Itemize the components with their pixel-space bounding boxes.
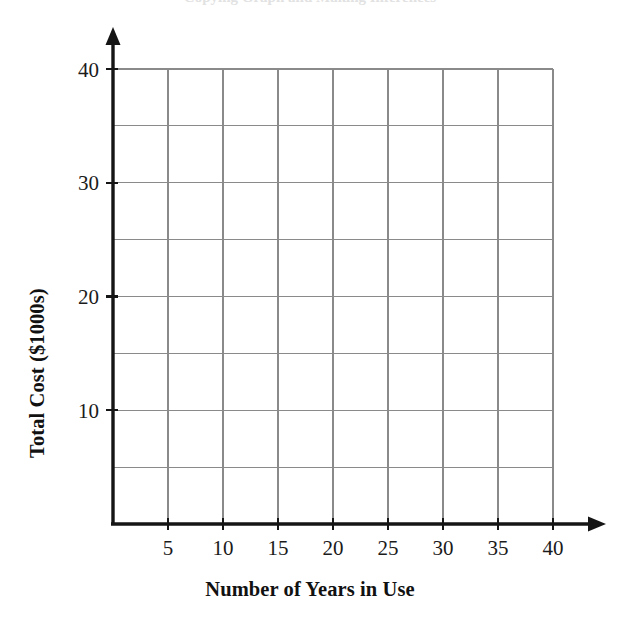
x-tick-label-40: 40 [543, 536, 564, 560]
x-tick-label-5: 5 [163, 536, 174, 560]
x-tick-label-35: 35 [488, 536, 509, 560]
chart-figure: Copying Graph and Making Inferences [0, 0, 620, 618]
y-tick-label-40: 40 [78, 58, 99, 82]
arrow-up-icon [106, 27, 121, 45]
y-tick-label-30: 30 [78, 171, 99, 195]
y-tick-label-10: 10 [78, 399, 99, 423]
x-tick-label-20: 20 [323, 536, 344, 560]
y-tick-label-20: 20 [78, 285, 99, 309]
x-tick-label-25: 25 [378, 536, 399, 560]
arrow-right-icon [588, 517, 606, 532]
x-axis-tick-labels: 5 10 15 20 25 30 35 40 [163, 536, 564, 560]
y-axis-tick-labels: 40 30 20 10 [78, 58, 99, 423]
plot-area: 40 30 20 10 5 10 15 20 25 30 35 40 [0, 0, 620, 618]
x-tick-label-15: 15 [268, 536, 289, 560]
x-tick-label-30: 30 [433, 536, 454, 560]
y-axis-title: Total Cost ($1000s) [26, 288, 49, 458]
x-axis-title: Number of Years in Use [0, 578, 620, 601]
x-tick-label-10: 10 [213, 536, 234, 560]
